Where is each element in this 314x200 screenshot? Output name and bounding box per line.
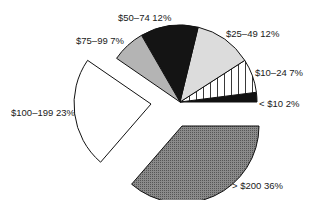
- label-25-49: $25–49 12%: [226, 29, 279, 39]
- label-75-99: $75–99 7%: [76, 36, 124, 46]
- slice-100-199: [74, 60, 151, 162]
- label-under-10: < $10 2%: [259, 99, 299, 109]
- label-100-199: $100–199 23%: [11, 108, 75, 118]
- label-over-200: > $200 36%: [232, 181, 283, 191]
- label-10-24: $10–24 7%: [255, 68, 303, 78]
- label-50-74: $50–74 12%: [118, 13, 171, 23]
